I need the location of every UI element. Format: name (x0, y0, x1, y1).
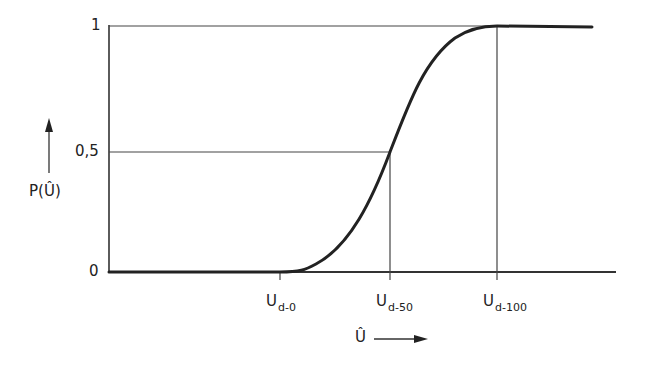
x-axis-label: Û (355, 328, 366, 346)
x-tick-ud0-sub: d-0 (278, 301, 296, 314)
y-tick-half: 0,5 (75, 142, 99, 160)
x-tick-ud100-label: Ud-100 (483, 292, 527, 310)
x-tick-ud50-base: U (376, 292, 387, 310)
x-tick-ud50-sub: d-50 (388, 301, 413, 314)
y-tick-1: 1 (91, 16, 101, 34)
y-tick-0: 0 (89, 262, 99, 280)
x-tick-ud100-base: U (483, 292, 494, 310)
chart-canvas (0, 0, 647, 367)
x-tick-ud0-label: Ud-0 (266, 292, 296, 310)
x-tick-ud0-base: U (266, 292, 277, 310)
y-arrow-icon (45, 118, 53, 132)
x-arrow-icon (414, 335, 428, 343)
x-tick-ud50-label: Ud-50 (376, 292, 413, 310)
x-tick-ud100-sub: d-100 (495, 301, 527, 314)
probability-curve (109, 26, 592, 272)
y-axis-label: P(Û) (29, 182, 61, 200)
